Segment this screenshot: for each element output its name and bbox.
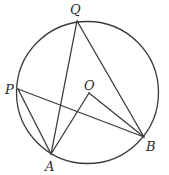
label-p: P [4,82,14,97]
segment-pb [18,89,144,137]
label-q: Q [70,2,81,17]
point-labels: Q P A B O [4,2,156,174]
label-a: A [44,159,54,174]
label-o: O [84,78,95,93]
segments [18,21,144,154]
segment-ob [89,93,144,137]
label-b: B [145,139,156,154]
circle-diagram: Q P A B O [0,0,169,175]
